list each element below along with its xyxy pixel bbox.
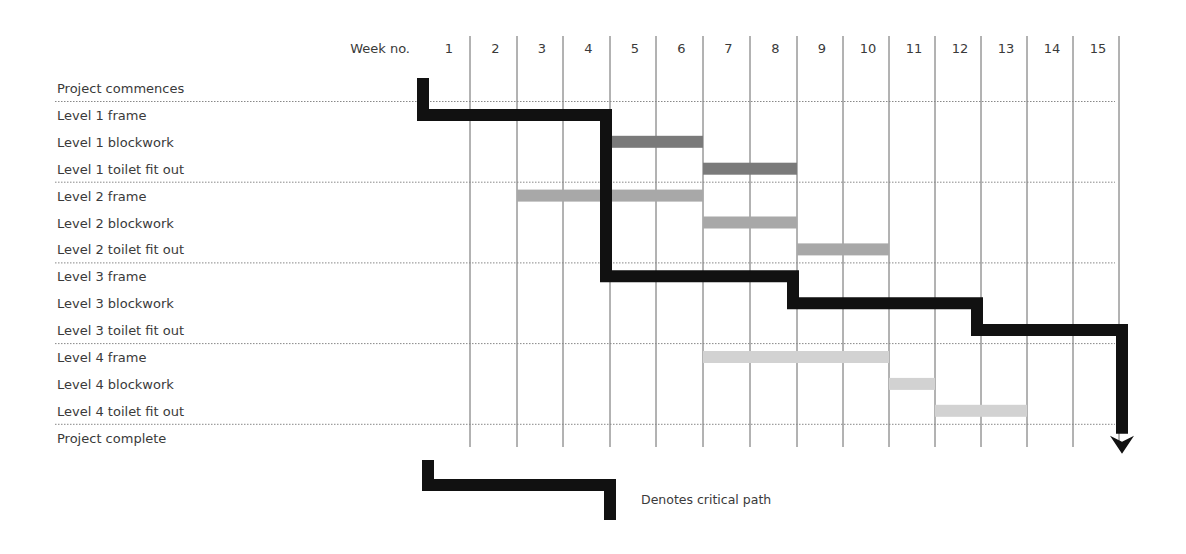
task-bar: [889, 378, 935, 390]
task-bar: [703, 217, 797, 229]
week-number-header: Week no.: [350, 41, 410, 56]
task-label: Level 1 blockwork: [57, 135, 174, 150]
legend-critical-path-symbol: [428, 460, 610, 520]
week-number: 11: [906, 41, 923, 56]
week-number: 2: [491, 41, 499, 56]
task-label: Level 3 blockwork: [57, 296, 174, 311]
task-label: Level 3 toilet fit out: [57, 323, 184, 338]
task-bar: [703, 163, 797, 175]
task-label: Level 3 frame: [57, 269, 146, 284]
week-number: 7: [724, 41, 732, 56]
week-number: 1: [445, 41, 453, 56]
task-bar: [610, 136, 703, 148]
task-bar: [703, 351, 889, 363]
week-numbers: 123456789101112131415: [445, 41, 1106, 56]
task-label: Level 1 frame: [57, 108, 146, 123]
week-number: 9: [818, 41, 826, 56]
week-number: 10: [860, 41, 877, 56]
task-label: Project complete: [57, 431, 166, 446]
gantt-chart: Week no. 123456789101112131415 Project c…: [0, 0, 1186, 554]
level-divider-lines: [55, 102, 1115, 425]
task-label: Level 4 toilet fit out: [57, 404, 184, 419]
week-number: 3: [538, 41, 546, 56]
legend-label: Denotes critical path: [641, 492, 771, 507]
task-label: Level 2 blockwork: [57, 216, 174, 231]
week-grid-lines: [470, 36, 1119, 447]
week-number: 12: [952, 41, 969, 56]
task-label: Level 4 blockwork: [57, 377, 174, 392]
task-bar: [797, 243, 889, 255]
critical-path-line: [423, 78, 1122, 434]
week-number: 6: [677, 41, 685, 56]
week-number: 4: [584, 41, 592, 56]
task-bar: [935, 405, 1027, 417]
task-label: Level 1 toilet fit out: [57, 162, 184, 177]
week-number: 13: [998, 41, 1015, 56]
task-label: Level 2 toilet fit out: [57, 242, 184, 257]
arrow-down-icon: [1110, 436, 1134, 454]
week-number: 5: [631, 41, 639, 56]
week-number: 8: [771, 41, 779, 56]
week-number: 15: [1090, 41, 1107, 56]
task-label: Level 2 frame: [57, 189, 146, 204]
task-label: Level 4 frame: [57, 350, 146, 365]
week-number: 14: [1044, 41, 1061, 56]
task-label: Project commences: [57, 81, 184, 96]
